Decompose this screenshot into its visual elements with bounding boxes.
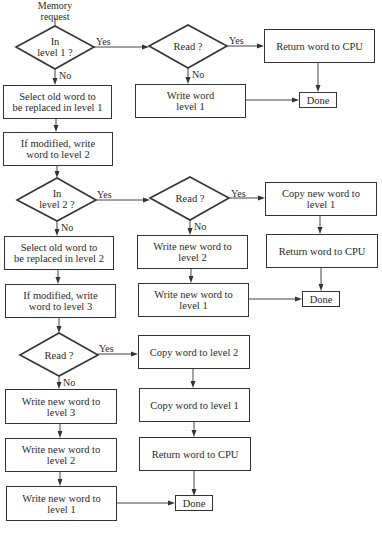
box-text: Copy word to level 1 xyxy=(150,400,239,411)
box-text-line1: Select old word to xyxy=(19,91,96,102)
decision-text-line1: In xyxy=(53,188,62,199)
select-old-word-level1-box[interactable]: Select old word to be replaced in level … xyxy=(3,85,112,119)
box-text: Copy word to level 2 xyxy=(150,347,239,358)
no-label-read2: No xyxy=(194,222,206,232)
decision-read-1[interactable]: Read ? xyxy=(159,38,217,54)
box-text-line2: level 1 xyxy=(176,101,204,112)
yes-label-read3: Yes xyxy=(99,344,114,354)
if-modified-write-level2-box[interactable]: If modified, write word to level 2 xyxy=(3,132,113,166)
return-word-to-cpu-box-2[interactable]: Return word to CPU xyxy=(266,234,378,268)
box-text-line1: Write new word to xyxy=(154,289,233,300)
memory-request-label: Memory request xyxy=(24,0,86,22)
box-text-line2: word to level 3 xyxy=(29,301,92,312)
box-text: Return word to CPU xyxy=(276,41,363,52)
box-text-line1: Write new word to xyxy=(22,493,101,504)
start-line1: Memory xyxy=(24,0,86,11)
box-text-line1: Copy new word to xyxy=(282,188,360,199)
write-new-word-level1-box-mid[interactable]: Write new word to level 1 xyxy=(138,283,249,317)
box-text-line2: level 2 xyxy=(47,455,75,466)
return-word-to-cpu-box-1[interactable]: Return word to CPU xyxy=(264,29,375,63)
yes-label-level2: Yes xyxy=(97,190,112,200)
copy-new-word-level1-box[interactable]: Copy new word to level 1 xyxy=(265,182,377,216)
decision-read-2[interactable]: Read ? xyxy=(161,190,219,206)
yes-label-read1: Yes xyxy=(229,36,244,46)
box-text-line1: Write word xyxy=(167,90,215,101)
box-text-line2: level 3 xyxy=(47,407,75,418)
return-word-to-cpu-box-3[interactable]: Return word to CPU xyxy=(139,437,251,471)
done-box-2[interactable]: Done xyxy=(302,291,340,307)
box-text-line2: word to level 2 xyxy=(26,149,89,160)
box-text-line1: Write new word to xyxy=(153,241,232,252)
decision-text-line2: level 2 ? xyxy=(39,199,75,210)
no-label-level1: No xyxy=(59,71,71,81)
box-text-line2: level 2 xyxy=(178,252,206,263)
box-text: Done xyxy=(310,294,333,305)
yes-label-level1: Yes xyxy=(96,37,111,47)
decision-in-level2[interactable]: In level 2 ? xyxy=(28,186,86,212)
no-label-read3: No xyxy=(63,378,75,388)
write-new-word-level2-box-mid[interactable]: Write new word to level 2 xyxy=(137,235,248,269)
select-old-word-level2-box[interactable]: Select old word to be replaced in level … xyxy=(4,236,114,270)
if-modified-write-level3-box[interactable]: If modified, write word to level 3 xyxy=(5,284,116,318)
write-new-word-level3-box[interactable]: Write new word to level 3 xyxy=(5,389,117,424)
decision-read-3[interactable]: Read ? xyxy=(30,347,88,363)
write-new-word-level1-box-bottom[interactable]: Write new word to level 1 xyxy=(6,486,117,521)
done-box-1[interactable]: Done xyxy=(299,92,337,108)
decision-text-line1: In xyxy=(51,36,60,47)
box-text-line2: be replaced in level 2 xyxy=(14,253,104,264)
decision-in-level1[interactable]: In level 1 ? xyxy=(26,34,84,60)
copy-word-level2-box[interactable]: Copy word to level 2 xyxy=(138,335,250,369)
box-text-line1: If modified, write xyxy=(23,290,97,301)
box-text-line2: level 1 xyxy=(179,300,207,311)
decision-text: Read ? xyxy=(176,193,205,204)
done-box-3[interactable]: Done xyxy=(175,495,213,511)
write-word-level1-box[interactable]: Write word level 1 xyxy=(135,84,246,118)
box-text-line2: level 1 xyxy=(307,199,335,210)
decision-text: Read ? xyxy=(45,350,74,361)
no-label-read1: No xyxy=(192,70,204,80)
yes-label-read2: Yes xyxy=(231,189,246,199)
box-text: Return word to CPU xyxy=(152,449,239,460)
copy-word-level1-box[interactable]: Copy word to level 1 xyxy=(139,388,250,422)
box-text-line2: level 1 xyxy=(47,504,75,515)
write-new-word-level2-box-bottom[interactable]: Write new word to level 2 xyxy=(5,438,117,472)
decision-text: Read ? xyxy=(174,41,203,52)
box-text-line1: Select old word to xyxy=(21,242,98,253)
no-label-level2: No xyxy=(61,223,73,233)
box-text-line1: Write new word to xyxy=(22,444,101,455)
box-text: Done xyxy=(307,95,330,106)
box-text-line1: Write new word to xyxy=(22,396,101,407)
box-text-line2: be replaced in level 1 xyxy=(13,102,103,113)
box-text: Done xyxy=(183,498,206,509)
decision-text-line2: level 1 ? xyxy=(37,47,73,58)
start-line2: request xyxy=(24,11,86,22)
box-text-line1: If modified, write xyxy=(21,138,95,149)
box-text: Return word to CPU xyxy=(279,246,366,257)
